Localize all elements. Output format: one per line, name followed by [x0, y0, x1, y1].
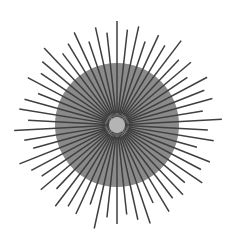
starburst-svg: [0, 0, 230, 241]
starburst-figure: Radial starburst: [0, 0, 230, 241]
